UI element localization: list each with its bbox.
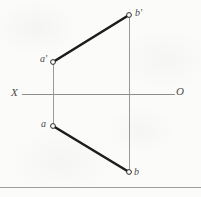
point-label-b: b: [134, 167, 139, 177]
projection-drawing: [0, 0, 201, 197]
point-marker-a-prime: [51, 60, 56, 65]
top-view-segment: [53, 126, 129, 172]
point-label-b-prime: b': [135, 8, 142, 18]
point-label-a-prime: a': [40, 54, 47, 64]
axis-label-x: X: [11, 87, 18, 98]
point-label-a: a: [41, 119, 46, 129]
front-view-segment: [53, 15, 129, 62]
point-marker-b-prime: [127, 13, 132, 18]
point-marker-b: [127, 170, 132, 175]
point-marker-a: [51, 124, 56, 129]
axis-label-o: O: [176, 86, 184, 97]
figure-canvas: X O b' a' a b: [0, 0, 201, 197]
